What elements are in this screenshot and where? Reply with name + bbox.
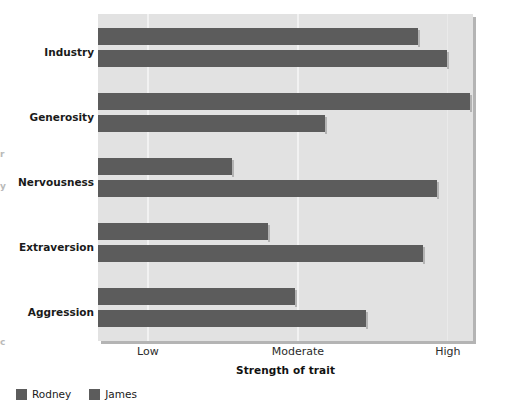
category-label-industry: Industry [2,47,94,58]
bar-chart-figure: Industry Generosity Nervousness Extraver… [0,0,513,409]
bar-generosity-james[interactable] [98,115,325,132]
x-axis-title: Strength of trait [98,364,473,376]
bar-industry-james[interactable] [98,50,447,67]
bar-extraversion-james[interactable] [98,245,423,262]
bar-nervousness-james[interactable] [98,180,437,197]
bar-aggression-james[interactable] [98,310,366,327]
category-label-nervousness: Nervousness [2,177,94,188]
legend-label-james: James [105,389,137,400]
legend-label-rodney: Rodney [32,389,71,400]
bar-generosity-rodney[interactable] [98,93,470,110]
plot-area [98,14,473,341]
x-tick-label-high: High [435,346,460,357]
legend-item-james[interactable]: James [89,389,137,400]
bar-nervousness-rodney[interactable] [98,158,232,175]
bar-industry-rodney[interactable] [98,28,418,45]
x-tick-label-moderate: Moderate [272,346,324,357]
y-axis-labels: Industry Generosity Nervousness Extraver… [0,0,94,341]
x-axis-tick-labels: Low Moderate High [0,346,513,362]
category-label-generosity: Generosity [2,112,94,123]
legend-item-rodney[interactable]: Rodney [16,389,71,400]
bar-aggression-rodney[interactable] [98,288,295,305]
category-label-extraversion: Extraversion [2,242,94,253]
bar-extraversion-rodney[interactable] [98,223,268,240]
legend-swatch-icon [89,389,100,400]
category-label-aggression: Aggression [2,307,94,318]
legend-swatch-icon [16,389,27,400]
chart-legend: Rodney James [16,389,137,400]
x-tick-label-low: Low [137,346,159,357]
